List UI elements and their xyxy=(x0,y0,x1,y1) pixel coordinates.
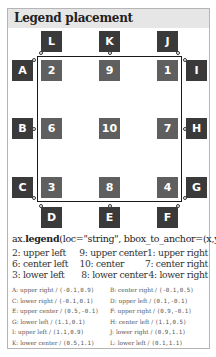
anchor-key-cell: I: upper left / (1.1,0.9) xyxy=(12,327,110,338)
outer-box-I: I xyxy=(186,60,207,81)
inner-box-center-left: 6 xyxy=(41,118,62,139)
outer-box-J: J xyxy=(157,31,178,52)
anchor-point-F xyxy=(176,204,180,208)
anchor-point-H xyxy=(183,127,187,131)
anchor-key-row: C: lower right / (-0.1,0.1) D: upper lef… xyxy=(12,296,208,307)
inner-box-lower-right: 4 xyxy=(157,177,178,198)
outer-box-E: E xyxy=(99,207,120,228)
anchor-key-cell: B: center right / (-0.1,0.5) xyxy=(110,285,208,296)
anchor-key-coords: (-0.1,0.1) xyxy=(59,298,94,304)
inner-box-lower-left: 3 xyxy=(41,177,62,198)
outer-box-D: D xyxy=(41,207,62,228)
anchor-key-cell: H: center left / (1.1,0.5) xyxy=(110,317,208,328)
location-cell: 4: lower right xyxy=(148,269,208,280)
anchor-key-label: J: lower right / xyxy=(110,329,154,335)
anchor-point-E xyxy=(108,204,112,208)
inner-box-upper-right: 1 xyxy=(157,60,178,81)
anchor-point-B xyxy=(32,127,36,131)
anchor-key-cell: D: upper left / (0.1,-0.1) xyxy=(110,296,208,307)
anchor-key-label: I: upper left / xyxy=(12,329,53,335)
anchor-key-coords: (1.1,0.9) xyxy=(53,329,84,335)
anchor-key-label: K: lower center / xyxy=(12,340,63,346)
anchor-key-label: G: lower left / xyxy=(12,319,54,325)
outer-box-A: A xyxy=(12,60,33,81)
anchor-key-coords: (0.1,1.1) xyxy=(151,340,182,346)
outer-box-L: L xyxy=(41,31,62,52)
code-prefix: ax. xyxy=(12,233,25,244)
anchor-key-coords: (0.9,-0.1) xyxy=(157,308,192,314)
location-cell: 3: lower left xyxy=(12,269,81,280)
anchor-key-row: A: upper right / (-0.1,0.9) B: center ri… xyxy=(12,285,208,296)
anchor-key-cell: A: upper right / (-0.1,0.9) xyxy=(12,285,110,296)
anchor-key-coords: (0.5,1.1) xyxy=(63,340,94,346)
anchor-key-cell: F: upper right / (0.9,-0.1) xyxy=(110,306,208,317)
anchor-key-table: A: upper right / (-0.1,0.9) B: center ri… xyxy=(12,285,208,348)
anchor-key-row: E: upper center / (0.5,-0.1) F: upper ri… xyxy=(12,306,208,317)
anchor-key-coords: (1.1,0.1) xyxy=(54,319,85,325)
inner-box-center-right: 7 xyxy=(157,118,178,139)
inner-box-lower-center: 8 xyxy=(99,177,120,198)
legend-call-signature: ax.legend(loc="string", bbox_to_anchor=(… xyxy=(12,233,216,244)
anchor-key-cell: L: lower left / (0.1,1.1) xyxy=(110,338,208,349)
location-cell: 7: center right xyxy=(145,258,208,269)
anchor-key-label: C: lower right / xyxy=(12,298,59,304)
anchor-key-label: F: upper right / xyxy=(110,308,157,314)
anchor-key-coords: (0.5,-0.1) xyxy=(64,308,99,314)
code-func: legend xyxy=(25,233,59,244)
anchor-key-cell: E: upper center / (0.5,-0.1) xyxy=(12,306,110,317)
anchor-key-coords: (0.1,-0.1) xyxy=(153,298,188,304)
anchor-key-row: G: lower left / (1.1,0.1) H: center left… xyxy=(12,317,208,328)
location-codes-table: 2: upper left 9: upper center 1: upper r… xyxy=(12,247,208,280)
anchor-point-I xyxy=(183,58,187,62)
anchor-key-coords: (-0.1,0.9) xyxy=(59,287,94,293)
anchor-key-label: D: upper left / xyxy=(110,298,153,304)
anchor-point-A xyxy=(32,58,36,62)
outer-box-F: F xyxy=(157,207,178,228)
anchor-key-label: H: center left / xyxy=(110,319,155,325)
anchor-key-label: L: lower left / xyxy=(110,340,151,346)
inner-box-center: 10 xyxy=(99,118,120,139)
location-row: 6: center left 10: center 7: center righ… xyxy=(12,258,208,269)
anchor-key-coords: (0.9,1.1) xyxy=(154,329,185,335)
anchor-key-label: A: upper right / xyxy=(12,287,59,293)
location-cell: 6: center left xyxy=(12,258,79,269)
outer-box-C: C xyxy=(12,177,33,198)
inner-box-upper-center: 9 xyxy=(99,60,120,81)
anchor-key-row: I: upper left / (1.1,0.9) J: lower right… xyxy=(12,327,208,338)
panel-header: Legend placement xyxy=(8,9,209,28)
anchor-key-label: E: upper center / xyxy=(12,308,64,314)
panel-title: Legend placement xyxy=(14,11,133,25)
inner-box-upper-left: 2 xyxy=(41,60,62,81)
outer-box-K: K xyxy=(99,31,120,52)
location-row: 3: lower left 8: lower center 4: lower r… xyxy=(12,269,208,280)
anchor-key-label: B: center right / xyxy=(110,287,159,293)
location-cell: 1: upper right xyxy=(147,247,208,258)
anchor-key-cell: C: lower right / (-0.1,0.1) xyxy=(12,296,110,307)
anchor-point-L xyxy=(39,51,43,55)
code-args: (loc="string", bbox_to_anchor=(x,y)) xyxy=(59,233,216,244)
location-cell: 2: upper left xyxy=(12,247,79,258)
outer-box-H: H xyxy=(186,118,207,139)
anchor-point-K xyxy=(108,51,112,55)
outer-box-B: B xyxy=(12,118,33,139)
anchor-point-G xyxy=(183,196,187,200)
anchor-key-coords: (1.1,0.5) xyxy=(155,319,186,325)
location-cell: 8: lower center xyxy=(81,269,148,280)
location-row: 2: upper left 9: upper center 1: upper r… xyxy=(12,247,208,258)
anchor-point-C xyxy=(32,196,36,200)
anchor-key-cell: J: lower right / (0.9,1.1) xyxy=(110,327,208,338)
anchor-point-J xyxy=(176,51,180,55)
anchor-key-cell: G: lower left / (1.1,0.1) xyxy=(12,317,110,328)
location-cell: 9: upper center xyxy=(79,247,147,258)
anchor-key-cell: K: lower center / (0.5,1.1) xyxy=(12,338,110,349)
anchor-point-D xyxy=(39,204,43,208)
outer-box-G: G xyxy=(186,177,207,198)
anchor-key-coords: (-0.1,0.5) xyxy=(159,287,194,293)
anchor-key-row: K: lower center / (0.5,1.1) L: lower lef… xyxy=(12,338,208,349)
location-cell: 10: center xyxy=(79,258,144,269)
